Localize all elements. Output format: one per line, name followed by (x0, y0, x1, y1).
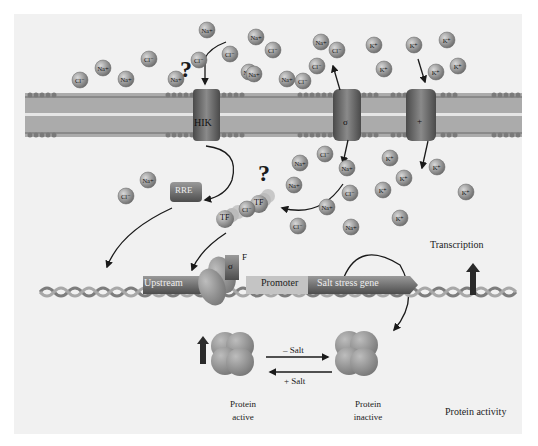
ion: Na+ (339, 160, 355, 176)
ion: Na+ (246, 66, 262, 82)
ion: Cl⁻ (295, 73, 311, 89)
ion: Cl⁻ (309, 58, 325, 74)
svg-text:K⁺: K⁺ (386, 155, 395, 162)
salt-stress-gene-label: Salt stress gene (317, 277, 379, 288)
ion: Cl⁻ (118, 188, 134, 204)
ion: Na+ (95, 60, 111, 76)
ion: K⁺ (458, 184, 474, 200)
svg-text:Na+: Na+ (201, 27, 213, 34)
ion: K⁺ (406, 37, 422, 53)
svg-text:K⁺: K⁺ (433, 164, 442, 171)
svg-text:K⁺: K⁺ (400, 175, 409, 182)
ion: Cl⁻ (191, 52, 207, 68)
ion: Cl⁻ (290, 218, 306, 234)
svg-text:Na+: Na+ (142, 177, 154, 184)
protein-inactive (335, 331, 378, 376)
ion: K⁺ (382, 150, 398, 166)
ion: Na+ (140, 172, 156, 188)
protein-active-line1: Protein (222, 398, 264, 411)
minus-salt-label: – Salt (283, 345, 304, 355)
svg-text:Cl⁻: Cl⁻ (194, 57, 204, 64)
plus-channel-label: + (417, 116, 422, 126)
svg-text:K⁺: K⁺ (396, 215, 405, 222)
svg-text:Na+: Na+ (341, 165, 353, 172)
svg-text:Na+: Na+ (315, 39, 327, 46)
svg-text:Na+: Na+ (250, 34, 262, 41)
protein-activity-label: Protein activity (445, 406, 506, 417)
ion: Na+ (279, 71, 295, 87)
svg-text:Na+: Na+ (281, 76, 293, 83)
diagram-graphics: Cl⁻Na+Na+Cl⁻Na+Cl⁻Na+Cl⁻Na+Na+Cl⁻Na+Na+C… (14, 14, 522, 434)
ion: Na+ (199, 22, 215, 38)
svg-text:Cl⁻: Cl⁻ (144, 56, 154, 63)
tf-label-2: TF (254, 198, 263, 207)
ion: Na+ (292, 155, 308, 171)
svg-text:K⁺: K⁺ (370, 42, 379, 49)
protein-active (211, 332, 254, 376)
svg-text:Na+: Na+ (288, 182, 300, 189)
svg-text:K⁺: K⁺ (454, 63, 463, 70)
sigma-factor-label: σ (228, 261, 233, 271)
hik-label: HIK (194, 117, 212, 128)
svg-text:Cl⁻: Cl⁻ (298, 78, 308, 85)
ions-outside: Cl⁻Na+Na+Cl⁻Na+Cl⁻Na+Cl⁻Na+Na+Cl⁻Na+Na+C… (72, 22, 466, 89)
plus-salt-label: + Salt (284, 376, 305, 386)
ion: Cl⁻ (342, 185, 358, 201)
ion: Na+ (313, 34, 329, 50)
svg-text:Na+: Na+ (97, 65, 109, 72)
ion: K⁺ (396, 170, 412, 186)
svg-text:K⁺: K⁺ (443, 37, 452, 44)
ion: Na+ (118, 71, 134, 87)
salt-arrows (266, 357, 332, 372)
svg-text:Cl⁻: Cl⁻ (312, 63, 322, 70)
ion: Cl⁻ (141, 51, 157, 67)
ion: Cl⁻ (329, 42, 345, 58)
svg-text:Na+: Na+ (345, 224, 357, 231)
rre-label: RRE (175, 185, 193, 195)
ion: K⁺ (375, 182, 391, 198)
promoter-label: Promoter (261, 277, 298, 288)
protein-active-label: Protein active (222, 398, 264, 424)
svg-text:Cl⁻: Cl⁻ (268, 47, 278, 54)
svg-text:Cl⁻: Cl⁻ (242, 206, 252, 213)
diagram-canvas: Cl⁻Na+Na+Cl⁻Na+Cl⁻Na+Cl⁻Na+Na+Cl⁻Na+Na+C… (14, 14, 522, 434)
question-mark-2: ? (258, 160, 270, 187)
svg-text:Cl⁻: Cl⁻ (320, 151, 330, 158)
ion: Cl⁻ (239, 201, 255, 217)
ion: Cl⁻ (72, 72, 88, 88)
protein-inactive-line1: Protein (346, 398, 390, 411)
svg-text:Cl⁻: Cl⁻ (332, 47, 342, 54)
svg-text:K⁺: K⁺ (380, 66, 389, 73)
protein-active-line2: active (222, 411, 264, 424)
ion: K⁺ (366, 37, 382, 53)
ion: Cl⁻ (317, 146, 333, 162)
plus-channel (406, 89, 436, 141)
svg-text:Cl⁻: Cl⁻ (121, 193, 131, 200)
svg-text:Na+: Na+ (120, 76, 132, 83)
sigma-factor-superscript: F (242, 252, 247, 262)
svg-text:Na+: Na+ (248, 71, 260, 78)
ion: K⁺ (450, 58, 466, 74)
ion: K⁺ (376, 61, 392, 77)
sigma-channel (333, 89, 361, 141)
svg-text:Na+: Na+ (294, 160, 306, 167)
ion: Na+ (286, 177, 302, 193)
ion: K⁺ (429, 159, 445, 175)
cell-membrane (25, 93, 522, 138)
svg-text:K⁺: K⁺ (432, 69, 441, 76)
ion: K⁺ (392, 210, 408, 226)
sigma-channel-label: σ (343, 117, 348, 127)
protein-inactive-label: Protein inactive (346, 398, 390, 424)
svg-text:Na+: Na+ (321, 204, 333, 211)
ion: Cl⁻ (222, 46, 238, 62)
ion: Na+ (248, 29, 264, 45)
svg-text:K⁺: K⁺ (379, 187, 388, 194)
svg-text:Cl⁻: Cl⁻ (293, 223, 303, 230)
ion: Cl⁻ (265, 42, 281, 58)
ion: K⁺ (428, 64, 444, 80)
protein-inactive-line2: inactive (346, 411, 390, 424)
ion: Na+ (343, 219, 359, 235)
ion: Na+ (319, 199, 335, 215)
svg-text:K⁺: K⁺ (410, 42, 419, 49)
upstream-label: Upstream (144, 277, 183, 288)
